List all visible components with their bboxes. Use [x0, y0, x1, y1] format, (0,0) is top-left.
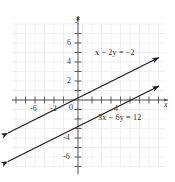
- line2-equation-label: 3x − 6y = 12: [98, 114, 141, 122]
- line1-equation-label: x − 2y = −2: [95, 49, 135, 57]
- x-tick-label-neg6: -6: [30, 105, 37, 113]
- line-3x-minus-6y-equals-12: [8, 86, 159, 162]
- x-tick-label-4: 4: [114, 105, 118, 113]
- y-axis-name: y: [76, 15, 80, 23]
- coordinate-plane-svg: [0, 0, 175, 182]
- grid-lines: [12, 24, 165, 167]
- y-tick-label-neg6: -6: [63, 153, 70, 161]
- y-tick-label-6: 6: [67, 39, 71, 47]
- x-tick-label-0: 0: [69, 104, 73, 112]
- axis-lines: [12, 16, 168, 174]
- x-axis-name: x: [164, 101, 168, 109]
- y-tick-label-neg4: -4: [63, 134, 70, 142]
- graph-figure: -6 -2 0 4 6 4 2 -4 -6 y x x − 2y = −2 3x…: [0, 0, 175, 182]
- y-tick-label-2: 2: [67, 77, 71, 85]
- y-tick-label-4: 4: [67, 58, 71, 66]
- x-tick-label-neg2: -2: [50, 105, 57, 113]
